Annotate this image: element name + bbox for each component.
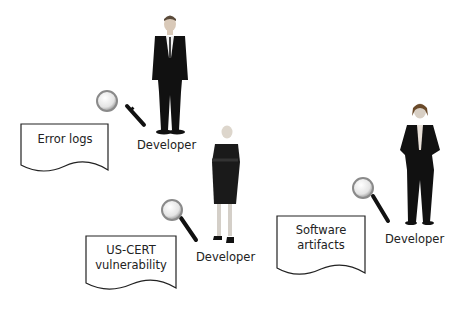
document-label-us-cert: US-CERT vulnerability [86, 243, 176, 273]
person-figure-icon [152, 16, 188, 135]
document-label-error-logs: Error logs [21, 132, 109, 147]
document-label-line: vulnerability [86, 258, 176, 273]
developer-label: Developer [137, 138, 196, 152]
document-label-line: US-CERT [86, 243, 176, 258]
magnifier-icon [162, 200, 196, 240]
developer-label: Developer [196, 250, 255, 264]
document-label-software-artifacts: Software artifacts [277, 223, 365, 253]
magnifier-icon [97, 91, 144, 127]
developer-label: Developer [385, 232, 444, 246]
person-figure-icon [212, 126, 240, 244]
magnifier-icon [353, 178, 388, 221]
document-label-line: artifacts [277, 238, 365, 253]
document-label-line: Software [277, 223, 365, 238]
person-figure-icon [400, 104, 440, 226]
